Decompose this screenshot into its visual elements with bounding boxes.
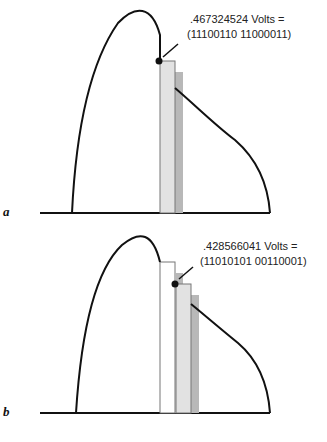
panel-b-annotation-line1: .428566041 Volts = [203,240,298,252]
panel-b-waveform-left [76,236,160,413]
panel-b: .428566041 Volts = (11010101 00110001) b [3,236,307,419]
panel-a-waveform-right [175,88,270,213]
panel-a-leader-line [163,44,178,57]
sampling-diagram: .467324524 Volts = (11100110 11000011) a… [0,0,327,442]
panel-b-letter: b [3,404,10,419]
panel-a-annotation-line1: .467324524 Volts = [190,13,285,25]
panel-b-sample-point [172,281,179,288]
panel-a-sample-bar [160,61,175,213]
panel-a-annotation-line2: (11100110 11000011) [187,28,291,40]
panel-a-letter: a [3,204,10,219]
panel-b-annotation-line2: (11010101 00110001) [200,255,307,267]
panel-b-sample-bar [176,284,191,413]
panel-a-waveform-left [72,11,160,213]
panel-b-bar-shadow-2 [191,295,199,413]
panel-a: .467324524 Volts = (11100110 11000011) a [3,11,291,219]
panel-b-waveform-right [191,304,270,413]
panel-a-sample-point [156,58,163,65]
